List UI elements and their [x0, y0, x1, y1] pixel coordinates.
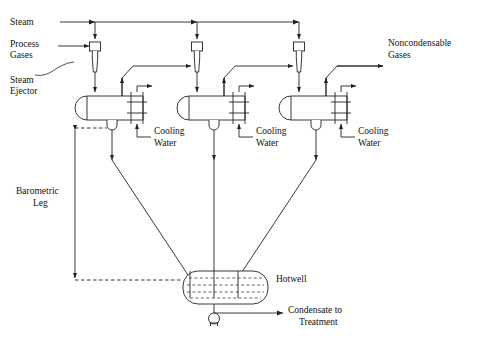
label-condensate-2: Treatment: [299, 317, 338, 327]
diagram-canvas: Steam Process Gases Steam Ejector Noncon…: [0, 0, 483, 345]
barometric-leg-dimension: [75, 128, 182, 280]
label-steam-ejector-2: Ejector: [10, 86, 38, 96]
label-barometric-leg-2: Leg: [33, 198, 48, 208]
process-flow-diagram: Steam Process Gases Steam Ejector Noncon…: [0, 0, 483, 345]
condensate-drain-1: [112, 130, 190, 278]
condensate-drain-3: [238, 130, 316, 278]
steam-header-line: [60, 22, 299, 39]
vapor-line-1-to-2: [122, 66, 191, 96]
steam-ejector-2: [192, 42, 203, 92]
label-noncondensable-1: Noncondensable: [388, 38, 451, 48]
label-leaders: [35, 62, 74, 75]
steam-ejector-3: [294, 42, 305, 92]
label-steam: Steam: [10, 17, 34, 27]
stage-1-group: [58, 42, 191, 278]
stage-3-group: [238, 42, 383, 278]
vapor-line-2-to-3: [224, 66, 293, 96]
noncondensable-gas-outlet: [326, 66, 383, 96]
label-hotwell: Hotwell: [276, 274, 307, 284]
label-cooling-water-2a: Cooling: [256, 126, 287, 136]
label-condensate-1: Condensate to: [288, 305, 342, 315]
label-cooling-water-2b: Water: [256, 138, 279, 148]
label-process-gases-1: Process: [10, 39, 39, 49]
label-barometric-leg-1: Barometric: [16, 186, 59, 196]
label-noncondensable-2: Gases: [388, 50, 411, 60]
label-cooling-water-1a: Cooling: [154, 126, 185, 136]
condensate-pump: [209, 304, 284, 326]
stage-2-group: [177, 42, 293, 278]
label-process-gases-2: Gases: [10, 50, 33, 60]
label-cooling-water-1b: Water: [154, 138, 177, 148]
label-steam-ejector-1: Steam: [10, 75, 34, 85]
hotwell-vessel: [183, 271, 268, 304]
label-cooling-water-3b: Water: [358, 138, 381, 148]
steam-ejector-1: [90, 42, 101, 92]
steam-ejector-leader: [35, 62, 74, 75]
label-cooling-water-3a: Cooling: [358, 126, 389, 136]
